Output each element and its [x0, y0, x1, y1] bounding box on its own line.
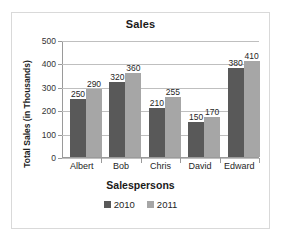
bar-group: 150170 [180, 40, 219, 157]
bar[interactable]: 150 [188, 122, 204, 157]
plot-area: 0100200300400500 25029032036021025515017… [62, 41, 259, 158]
bar-value-label: 380 [229, 58, 243, 68]
x-axis-tick-label: Edward [224, 161, 255, 171]
legend-swatch-icon [147, 201, 154, 208]
bar-value-label: 170 [205, 107, 219, 117]
bar-value-label: 360 [126, 63, 140, 73]
y-axis-tick-label: 0 [51, 153, 56, 163]
bar[interactable]: 250 [70, 99, 86, 158]
bar[interactable]: 320 [109, 82, 125, 157]
x-axis-tick-label: Bob [113, 161, 129, 171]
chart-legend: 20102011 [12, 199, 269, 210]
chart-container: Sales Total Sales (in Thousands) 0100200… [11, 12, 270, 229]
bar-group: 250290 [62, 40, 101, 157]
bar[interactable]: 255 [165, 97, 181, 157]
bar-value-label: 150 [189, 112, 203, 122]
legend-label: 2011 [157, 199, 177, 210]
bar-value-label: 255 [166, 87, 180, 97]
chart-title: Sales [12, 18, 269, 30]
bar-value-label: 410 [245, 51, 259, 61]
x-axis-tick-labels: AlbertBobChrisDavidEdward [62, 161, 259, 177]
bar[interactable]: 410 [244, 61, 260, 157]
y-axis-tick-label: 200 [42, 106, 56, 116]
legend-label: 2010 [114, 199, 135, 210]
category-separator-tick [259, 158, 260, 163]
y-axis-tick-label: 300 [42, 83, 56, 93]
legend-swatch-icon [104, 201, 111, 208]
legend-item[interactable]: 2010 [104, 199, 135, 210]
bar[interactable]: 360 [125, 73, 141, 157]
bar-value-label: 250 [71, 89, 85, 99]
legend-item[interactable]: 2011 [147, 199, 177, 210]
x-axis-title: Salespersons [12, 179, 269, 191]
y-axis-title: Total Sales (in Thousands) [22, 58, 32, 170]
y-axis-tick [58, 158, 62, 159]
y-axis-tick-label: 100 [42, 130, 56, 140]
x-axis-tick-label: Chris [150, 161, 171, 171]
bar-value-label: 210 [150, 98, 164, 108]
bar-group: 380410 [220, 40, 259, 157]
x-axis-tick-label: David [188, 161, 211, 171]
bar[interactable]: 210 [149, 108, 165, 157]
bar[interactable]: 170 [204, 117, 220, 157]
x-axis-tick-label: Albert [70, 161, 94, 171]
y-axis-tick-label: 500 [42, 36, 56, 46]
bar-value-label: 320 [110, 72, 124, 82]
gridline [62, 158, 259, 159]
bar-group: 210255 [141, 40, 180, 157]
bar-group: 320360 [101, 40, 140, 157]
bar-value-label: 290 [87, 79, 101, 89]
bar[interactable]: 380 [228, 68, 244, 157]
y-axis-tick-label: 400 [42, 59, 56, 69]
bar[interactable]: 290 [86, 89, 102, 157]
